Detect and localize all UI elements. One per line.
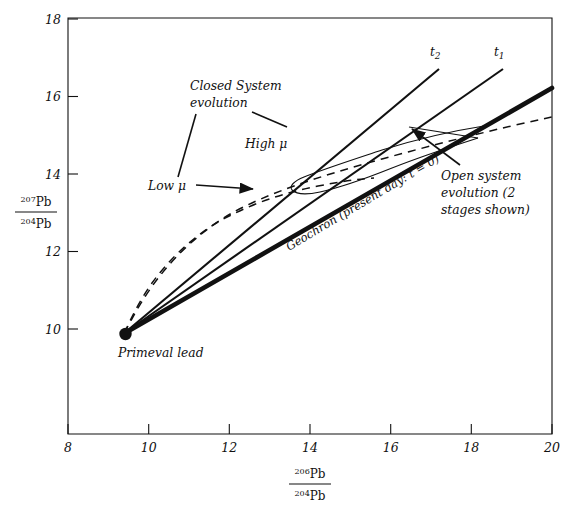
- low-mu-arrow: [196, 185, 253, 189]
- series-isochron-t2: [125, 69, 440, 333]
- x-axis-title: 206Pb 204Pb: [289, 467, 331, 503]
- y-axis-numerator-element: Pb: [36, 195, 52, 209]
- y-tick-label-10: 10: [45, 322, 61, 337]
- y-tick-label-14: 14: [45, 167, 61, 182]
- annotation-primeval-lead: Primeval lead: [117, 346, 204, 360]
- x-tick-label-12: 12: [221, 440, 237, 455]
- y-tick-label-18: 18: [45, 12, 61, 27]
- annotation-closed-system-evolution: Closed System evolution: [178, 79, 282, 177]
- y-axis-tick-labels: 18 16 14 12 10: [45, 12, 61, 337]
- figure-root: 18 16 14 12 10 8 10 12 14 16 18 20: [0, 0, 572, 509]
- x-axis-denominator-mass: 204: [294, 489, 309, 498]
- annotation-low-mu: Low μ: [147, 179, 253, 193]
- x-axis-numerator-element: Pb: [310, 467, 326, 481]
- x-tick-label-14: 14: [302, 440, 318, 455]
- x-axis-tick-labels: 8 10 12 14 16 18 20: [64, 440, 560, 455]
- low-mu-label: Low μ: [147, 179, 186, 193]
- y-tick-label-12: 12: [45, 244, 61, 259]
- closed-system-line1: Closed System: [190, 79, 282, 93]
- high-mu-label: High μ: [244, 137, 287, 151]
- open-system-line2: evolution (2: [441, 186, 515, 200]
- primeval-lead-label: Primeval lead: [117, 346, 204, 360]
- isochron-label-t1: t1: [494, 45, 505, 61]
- x-tick-label-10: 10: [141, 440, 157, 455]
- x-tick-label-8: 8: [64, 440, 72, 455]
- closed-system-line2: evolution: [190, 96, 248, 110]
- y-axis-numerator-mass: 207: [20, 195, 35, 204]
- high-mu-leader-line: [252, 112, 287, 127]
- x-axis-numerator-mass: 206: [294, 467, 309, 476]
- x-tick-label-18: 18: [463, 440, 479, 455]
- y-tick-label-16: 16: [45, 89, 61, 104]
- y-axis-ticks: [68, 19, 78, 329]
- x-tick-label-16: 16: [383, 440, 399, 455]
- primeval-lead-marker: [119, 328, 131, 340]
- y-axis-numerator: 207Pb: [20, 195, 51, 209]
- closed-system-leader-line: [178, 114, 196, 177]
- x-axis-denominator: 204Pb: [294, 489, 325, 503]
- isochron-label-t2: t2: [430, 45, 441, 61]
- x-tick-label-20: 20: [543, 440, 560, 455]
- open-system-line1: Open system: [441, 169, 522, 183]
- x-axis-denominator-element: Pb: [310, 489, 326, 503]
- annotation-high-mu: High μ: [244, 112, 287, 151]
- y-axis-denominator-element: Pb: [36, 217, 52, 231]
- y-axis-title: 207Pb 204Pb: [15, 195, 57, 231]
- y-axis-denominator-mass: 204: [20, 217, 35, 226]
- lead-isotope-plot: 18 16 14 12 10 8 10 12 14 16 18 20: [0, 0, 572, 509]
- x-axis-ticks: [68, 424, 552, 434]
- y-axis-denominator: 204Pb: [20, 217, 51, 231]
- x-axis-numerator: 206Pb: [294, 467, 325, 481]
- series-isochron-t1: [125, 69, 504, 333]
- open-system-line3: stages shown): [441, 203, 530, 217]
